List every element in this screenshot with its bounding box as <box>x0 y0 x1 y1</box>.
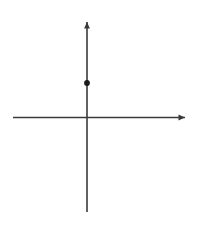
graph-canvas <box>0 0 208 236</box>
x-axis-arrowhead <box>179 115 186 121</box>
data-series-group <box>84 80 90 86</box>
y-axis-arrowhead <box>84 22 90 29</box>
coordinate-plane-figure <box>0 0 208 236</box>
closed-endpoint-dot <box>84 80 90 86</box>
axes <box>13 22 185 212</box>
